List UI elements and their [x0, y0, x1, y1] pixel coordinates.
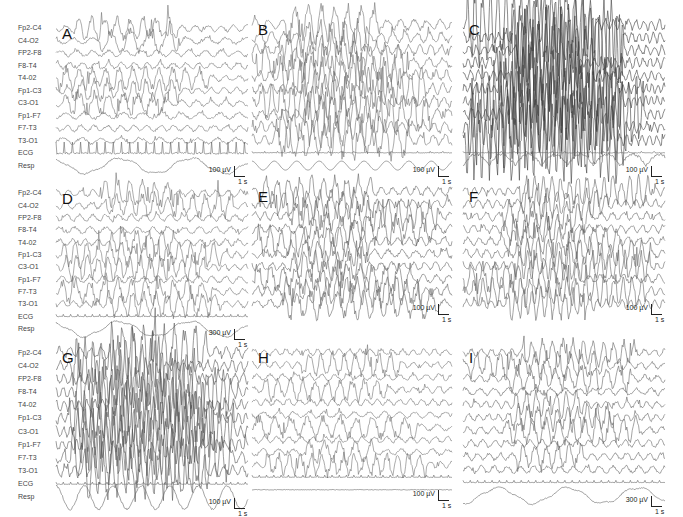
time-scale-label: 1 s: [238, 341, 247, 348]
time-bar: [234, 176, 245, 177]
eeg-panel-g: G100 µV1 s: [56, 346, 248, 504]
time-bar: [651, 176, 662, 177]
trace-f7-t3: [56, 273, 248, 306]
time-bar: [234, 339, 245, 340]
trace-fp2-c4: [463, 0, 665, 68]
trace-t3-o1: [252, 452, 452, 478]
channel-label: FP2-F8: [18, 49, 41, 57]
channel-label: Fp2-C4: [18, 24, 41, 32]
trace-t4-02: [56, 227, 248, 257]
channel-label: Resp: [18, 162, 34, 170]
time-scale-label: 1 s: [238, 510, 247, 517]
trace-ecg: [463, 151, 665, 153]
trace-ecg: [56, 482, 248, 484]
channel-label: ECG: [18, 149, 33, 157]
channel-label: T3-O1: [18, 300, 38, 308]
channel-labels: Fp2-C4C4-O2FP2-F8F8-T4T4-02Fp1-C3C3-O1Fp…: [18, 187, 58, 335]
channel-label: Resp: [18, 493, 34, 501]
trace-f7-t3: [56, 124, 248, 132]
eeg-traces: [56, 346, 248, 504]
channel-label: Fp1-C3: [18, 414, 41, 422]
channel-label: T4-02: [18, 239, 36, 247]
amplitude-scale-label: 100 µV: [209, 166, 231, 173]
time-bar: [234, 508, 245, 509]
eeg-traces: [463, 18, 665, 172]
trace-fp1-f7: [252, 92, 452, 136]
channel-label: F8-T4: [18, 226, 37, 234]
channel-label: Fp1-F7: [18, 441, 41, 449]
trace-fp2-f8: [56, 211, 248, 222]
channel-label: Fp2-C4: [18, 349, 41, 357]
eeg-panel-c: C100 µV1 s: [463, 18, 665, 172]
eeg-traces: [463, 346, 665, 502]
channel-label: Fp1-C3: [18, 251, 41, 259]
panel-letter: H: [258, 350, 269, 365]
channel-label: C3-O1: [18, 263, 39, 271]
amplitude-scale-label: 300 µV: [626, 496, 648, 503]
trace-fp2-f8: [463, 193, 665, 233]
time-scale-label: 1 s: [655, 316, 664, 323]
channel-label: Fp2-C4: [18, 189, 41, 197]
eeg-traces: [252, 18, 452, 172]
trace-fp2-f8: [252, 199, 452, 233]
panel-letter: F: [469, 189, 478, 204]
trace-c4-o2: [252, 187, 452, 221]
trace-f8-t4: [463, 387, 665, 396]
trace-ecg: [252, 151, 452, 153]
channel-label: C3-O1: [18, 428, 39, 436]
channel-label: FP2-F8: [18, 214, 41, 222]
panel-letter: B: [258, 22, 268, 37]
time-bar: [438, 314, 449, 315]
trace-ecg: [252, 475, 452, 477]
channel-label: C4-O2: [18, 202, 39, 210]
time-scale-label: 1 s: [238, 178, 247, 185]
trace-t3-o1: [463, 465, 665, 474]
time-scale-label: 1 s: [655, 508, 664, 515]
channel-label: Resp: [18, 325, 34, 333]
channel-label: Fp1-F7: [18, 276, 41, 284]
channel-label: T4-02: [18, 74, 36, 82]
amplitude-scale-label: 100 µV: [209, 498, 231, 505]
trace-c3-o1: [252, 67, 452, 124]
trace-fp2-c4: [252, 348, 452, 356]
eeg-traces: [463, 185, 665, 310]
panel-letter: D: [62, 191, 73, 206]
channel-label: F7-T3: [18, 124, 37, 132]
trace-t3-o1: [252, 119, 452, 161]
trace-fp1-f7: [56, 274, 248, 283]
eeg-panel-a: A100 µV1 s: [56, 22, 248, 172]
amplitude-scale-label: 300 µV: [209, 329, 231, 336]
trace-t4-02: [252, 399, 452, 407]
channel-label: ECG: [18, 313, 33, 321]
panel-letter: A: [62, 26, 72, 41]
eeg-panel-d: D300 µV1 s: [56, 187, 248, 335]
trace-c4-o2: [56, 180, 248, 219]
trace-fp1-c3: [252, 237, 452, 270]
time-scale-label: 1 s: [655, 178, 664, 185]
channel-label: ECG: [18, 480, 33, 488]
channel-label: F8-T4: [18, 388, 37, 396]
time-scale-label: 1 s: [442, 502, 451, 509]
eeg-traces: [252, 346, 452, 496]
channel-labels: Fp2-C4C4-O2FP2-F8F8-T4T4-02Fp1-C3C3-O1Fp…: [18, 22, 58, 172]
amplitude-scale-label: 100 µV: [626, 304, 648, 311]
eeg-traces: [56, 187, 248, 335]
channel-label: Fp1-F7: [18, 112, 41, 120]
eeg-traces: [252, 185, 452, 310]
amplitude-scale-label: 100 µV: [626, 166, 648, 173]
trace-f7-t3: [463, 265, 665, 308]
trace-f8-t4: [56, 59, 248, 70]
eeg-panel-b: B100 µV1 s: [252, 18, 452, 172]
channel-label: T3-O1: [18, 137, 38, 145]
amplitude-scale-label: 100 µV: [413, 166, 435, 173]
channel-label: F7-T3: [18, 454, 37, 462]
amplitude-scale-label: 100 µV: [413, 304, 435, 311]
trace-c3-o1: [252, 246, 452, 281]
trace-ecg: [56, 314, 248, 316]
time-scale-label: 1 s: [442, 316, 451, 323]
trace-fp1-f7: [252, 434, 452, 444]
eeg-panel-f: F100 µV1 s: [463, 185, 665, 310]
trace-fp1-c3: [252, 408, 452, 419]
channel-label: C4-O2: [18, 362, 39, 370]
